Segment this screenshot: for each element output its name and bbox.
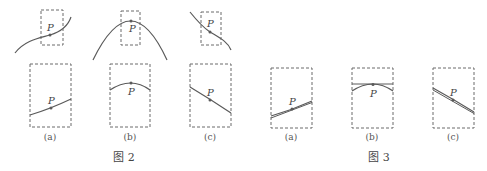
figure-2: P P P P (a) P (b <box>15 10 231 164</box>
point-p-label: P <box>46 22 54 33</box>
point-p-dot <box>130 82 133 85</box>
point-p-label: P <box>206 18 214 29</box>
figure-2-panel-b-overview: P <box>93 11 167 60</box>
figure-2-panel-b-magnified: P (b) <box>110 64 150 142</box>
figure-3-panel-a: P (a) <box>271 68 312 142</box>
panel-caption: (c) <box>204 132 216 142</box>
point-p-label: P <box>47 95 55 106</box>
point-p-label: P <box>449 87 457 98</box>
panel-caption: (a) <box>285 132 297 142</box>
figure-2-panel-c-overview: P <box>190 12 231 50</box>
point-p-label: P <box>288 96 296 107</box>
point-p-dot <box>372 83 375 86</box>
point-p-dot <box>452 99 455 102</box>
figure-caption: 图 3 <box>368 151 390 164</box>
figure-3-panel-c: P (c) <box>433 68 474 142</box>
point-p-label: P <box>206 87 214 98</box>
panel-caption: (c) <box>447 132 459 142</box>
point-p-dot <box>291 108 294 111</box>
panel-caption: (b) <box>366 132 379 142</box>
point-p-dot <box>209 99 212 102</box>
point-p-label: P <box>128 23 136 34</box>
panel-caption: (b) <box>124 132 137 142</box>
magnified-window <box>433 68 474 128</box>
point-p-dot <box>209 31 212 34</box>
figure-3-panel-b: P (b) <box>352 68 393 142</box>
panel-caption: (a) <box>44 132 56 142</box>
point-p-label: P <box>127 86 135 97</box>
point-p-label: P <box>369 88 377 99</box>
figure-caption: 图 2 <box>113 151 135 164</box>
figure-3: P (a) P (b) P (c) 图 3 <box>271 68 474 164</box>
point-p-dot <box>49 34 52 37</box>
point-p-dot <box>50 107 53 110</box>
figure-2-panel-c-magnified: P (c) <box>190 64 231 142</box>
calculus-local-linearity-diagram: P P P P (a) P (b <box>0 0 487 171</box>
figure-2-panel-a-overview: P <box>15 10 71 53</box>
figure-2-panel-a-magnified: P (a) <box>30 64 71 142</box>
